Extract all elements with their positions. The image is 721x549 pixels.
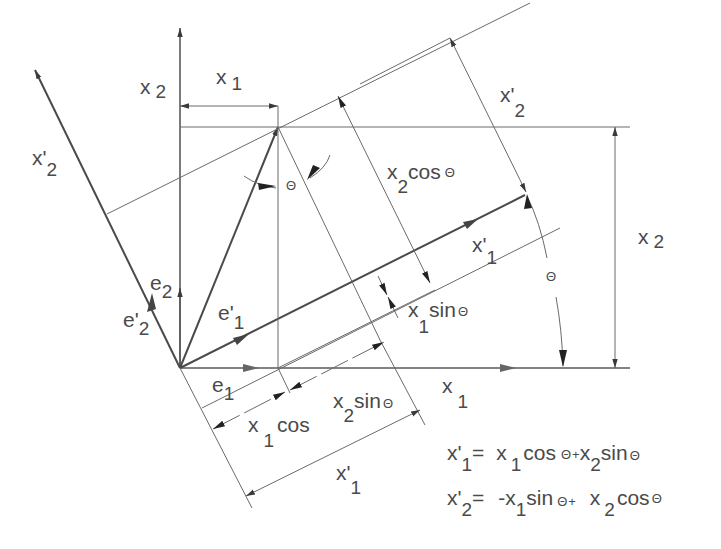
position-vector: [180, 127, 278, 368]
dim-x1-sin-a: [378, 276, 387, 295]
perp-from-x1-foot: [278, 368, 290, 393]
x1-axis-arrow: [500, 364, 516, 372]
e1-arrow: [243, 364, 259, 372]
dim-x1-sin-b: [388, 297, 398, 318]
label-x2-axis: x2: [140, 75, 166, 102]
dim-x2-cos: [338, 96, 430, 283]
label-e2: e2: [150, 271, 172, 302]
dim-x2-sin: [290, 342, 384, 390]
label-x1-axis: x1: [442, 374, 468, 412]
label-x2-sin-theta: x2sinΘ: [333, 389, 393, 426]
perp-through-x1-end: [380, 340, 425, 425]
ext-x2-prime-top: [360, 38, 450, 84]
theta-label-top: Θ: [286, 178, 296, 193]
e1-prime-arrow: [233, 334, 249, 345]
label-dim-x2-prime: x'2: [500, 83, 525, 121]
x1-prime-axis-arrow: [463, 219, 478, 229]
label-x1-cos: x1cos: [248, 413, 310, 451]
dim-x1-prime: [246, 410, 420, 496]
label-x1-prime-axis: x'1: [472, 233, 497, 268]
label-x2-prime-axis: x'2: [32, 146, 57, 180]
label-dim-x1-top: x1: [216, 65, 242, 94]
offset-parallel-1: [202, 228, 560, 408]
theta-arrow-right-upper: [524, 194, 532, 209]
label-e2-prime: e'2: [123, 308, 149, 339]
rotation-diagram: x2 x1 x'2 Θ x'2 x2cosΘ x'1 x2 Θ e2 e'2 e…: [0, 0, 721, 549]
line-parallel-x1p-through-p: [107, 3, 530, 214]
label-x2-cos-theta: x2cosΘ: [387, 160, 455, 197]
x2-prime-axis: [35, 70, 180, 368]
label-x1-sin-theta: x1sinΘ: [408, 298, 468, 337]
equation-x1-prime: x'1= x1cosΘ+x2sinΘ: [447, 441, 640, 475]
equation-x2-prime: x'2= -x1sinΘ+x2cosΘ: [447, 486, 662, 520]
label-dim-x1-prime: x'1: [336, 461, 361, 498]
theta-arrow-top-left: [258, 183, 276, 190]
label-e1: e1: [212, 373, 234, 404]
theta-label-right: Θ: [546, 269, 556, 284]
theta-arrow-right-lower: [559, 350, 567, 367]
label-e1-prime: e'1: [218, 301, 244, 333]
label-dim-x2-right: x2: [638, 225, 664, 252]
